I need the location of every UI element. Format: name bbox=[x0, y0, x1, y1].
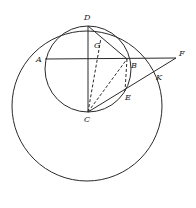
geometry-diagram: D G A B F K E C bbox=[0, 0, 196, 208]
label-g: G bbox=[94, 41, 101, 50]
label-c: C bbox=[84, 115, 90, 124]
segment-af bbox=[45, 58, 176, 59]
dashed-cb bbox=[88, 59, 127, 112]
label-b: B bbox=[130, 61, 137, 70]
label-k: K bbox=[155, 73, 163, 82]
label-a: A bbox=[35, 55, 42, 64]
large-circle bbox=[12, 31, 162, 181]
label-e: E bbox=[124, 93, 131, 102]
label-f: F bbox=[178, 49, 185, 58]
dashed-be bbox=[125, 59, 127, 91]
label-d: D bbox=[83, 13, 91, 22]
